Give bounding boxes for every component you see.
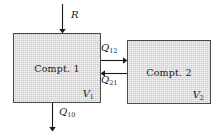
compartment-2-box: Compt. 2 V2 — [127, 40, 211, 104]
compartment-2-volume-symbol: V — [193, 89, 200, 100]
compartment-1-box: Compt. 1 V1 — [13, 33, 101, 103]
input-rate-symbol: R — [71, 9, 79, 20]
flow-2-to-1-label: Q21 — [101, 74, 117, 85]
flow-2-to-1-symbol: Q — [101, 74, 109, 85]
compartment-2-volume-subscript: 2 — [200, 94, 204, 102]
flow-1-to-2-label: Q12 — [101, 42, 117, 53]
compartment-2-label: Compt. 2 — [128, 67, 210, 78]
input-rate-label: R — [71, 9, 79, 20]
compartment-1-volume-subscript: 1 — [90, 93, 94, 101]
compartment-2-volume-label: V2 — [193, 89, 204, 100]
elimination-symbol: Q — [59, 106, 67, 117]
compartment-1-volume-label: V1 — [83, 88, 94, 99]
flow-1-to-2-symbol: Q — [101, 42, 109, 53]
elimination-label: Q10 — [59, 106, 75, 117]
elimination-subscript: 10 — [67, 111, 75, 119]
flow-1-to-2-subscript: 12 — [109, 47, 117, 55]
two-compartment-diagram: Compt. 1 V1 Compt. 2 V2 R Q12 Q21 Q10 — [0, 0, 221, 134]
compartment-1-volume-symbol: V — [83, 88, 90, 99]
flow-2-to-1-subscript: 21 — [109, 79, 117, 87]
compartment-1-label: Compt. 1 — [14, 63, 100, 74]
